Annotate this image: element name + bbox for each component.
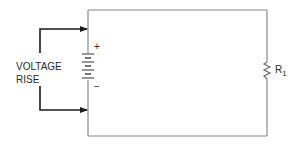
voltage-rise-label-line1: VOLTAGE bbox=[16, 61, 62, 72]
resistor-icon bbox=[264, 62, 270, 79]
battery-negative-label: − bbox=[94, 81, 100, 92]
battery-icon bbox=[82, 54, 94, 78]
circuit-diagram: + − R1 VOLTAGE RISE bbox=[0, 0, 299, 147]
voltage-rise-label-line2: RISE bbox=[16, 74, 40, 85]
resistor-label: R1 bbox=[275, 64, 287, 78]
circuit-wires bbox=[88, 10, 267, 136]
battery-positive-label: + bbox=[94, 41, 100, 52]
